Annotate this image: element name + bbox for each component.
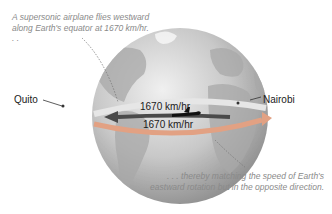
quito-marker-icon [62,105,65,108]
top-caption: A supersonic airplane flies westward alo… [12,12,152,44]
diagram-stage: A supersonic airplane flies westward alo… [0,0,332,214]
nairobi-marker-icon [237,102,240,105]
quito-label: Quito [14,94,38,105]
plane-speed-label: 1670 km/hr [140,101,190,112]
bottom-caption: . . . thereby matching the speed of Eart… [134,171,324,192]
nairobi-label: Nairobi [263,94,295,105]
earth-speed-label: 1670 km/hr [143,119,193,130]
quito-leader-line [43,100,62,106]
